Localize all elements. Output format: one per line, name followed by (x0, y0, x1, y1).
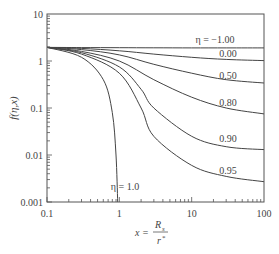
x-tick-label: 0.1 (41, 208, 54, 219)
series-line (47, 47, 264, 181)
x-tick-label: 1 (117, 208, 122, 219)
y-tick-label: 0.1 (31, 103, 44, 114)
y-tick-label: 10 (33, 9, 43, 20)
y-axis-label: f(η,x) (7, 96, 20, 120)
series-label: 0.95 (219, 165, 237, 176)
x-axis-label-denominator: r (157, 235, 161, 246)
x-axis-label-denominator-sup: * (162, 234, 166, 242)
series-label: 0.50 (219, 70, 237, 81)
series-label: 0.00 (219, 48, 237, 59)
series-label: 0.90 (219, 133, 237, 144)
x-axis-label-numerator: R (154, 219, 161, 230)
series-label: η = −1.00 (195, 34, 234, 45)
y-tick-label: 1 (38, 56, 43, 67)
y-tick-label: 0.01 (26, 150, 44, 161)
series-line (47, 47, 118, 202)
x-tick-label: 100 (257, 208, 272, 219)
chart: 0.11101000.0010.010.1110 η = −1.000.000.… (0, 0, 279, 254)
series-label: η = 1.0 (111, 181, 139, 192)
series-label: 0.80 (219, 97, 237, 108)
x-axis-label-prefix: x = (134, 227, 149, 238)
x-tick-label: 10 (187, 208, 197, 219)
x-axis-label: x = R s r * (134, 219, 168, 246)
y-tick-label: 0.001 (21, 197, 44, 208)
